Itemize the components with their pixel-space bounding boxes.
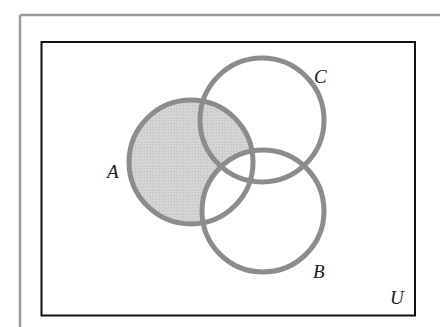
venn-diagram: A C B U xyxy=(0,0,440,327)
set-c-label: C xyxy=(314,66,327,87)
set-b-label: B xyxy=(313,261,325,282)
set-a-label: A xyxy=(105,161,119,182)
universe-label: U xyxy=(390,287,405,308)
